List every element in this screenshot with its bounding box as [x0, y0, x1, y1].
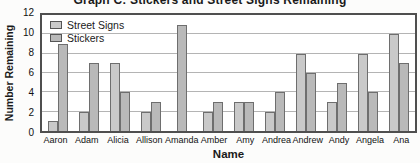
bar-stickers-adam [89, 63, 99, 131]
y-axis-label: Number Remaining [3, 25, 15, 121]
x-label-andy: Andy [323, 135, 354, 145]
bar-stickers-allison [151, 102, 161, 131]
x-axis-label: Name [40, 148, 417, 160]
x-label-amber: Amber [198, 135, 229, 145]
y-tick-label: 4 [28, 88, 34, 98]
y-tick-label: 8 [28, 48, 34, 58]
bar-street-signs-andrew [296, 54, 306, 131]
bar-group-andy [322, 15, 353, 131]
x-label-angela: Angela [355, 135, 386, 145]
y-tick-label: 10 [23, 28, 34, 38]
bar-group-allison [135, 15, 166, 131]
bar-street-signs-adam [79, 112, 89, 131]
y-tick-label: 2 [28, 108, 34, 118]
x-label-aaron: Aaron [40, 135, 71, 145]
x-label-allison: Allison [134, 135, 165, 145]
x-label-andrew: Andrew [292, 135, 323, 145]
legend-swatch-street-signs [50, 21, 62, 29]
bar-street-signs-andy [327, 102, 337, 131]
legend-swatch-stickers [50, 34, 62, 42]
bar-stickers-amanda [177, 25, 187, 131]
y-tick-label: 6 [28, 68, 34, 78]
bar-group-angela [353, 15, 384, 131]
bar-stickers-aaron [58, 44, 68, 131]
bar-street-signs-andrea [265, 112, 275, 131]
x-label-adam: Adam [71, 135, 102, 145]
bar-stickers-amy [244, 102, 254, 131]
y-tick-label: 12 [23, 8, 34, 18]
bar-street-signs-aaron [48, 121, 58, 131]
x-axis-category-labels: AaronAdamAliciaAllisonAmandaAmberAmyAndr… [40, 135, 417, 145]
y-axis-ticks: 121086420 [16, 13, 36, 133]
legend-label-stickers: Stickers [67, 32, 104, 44]
legend-item-stickers: Stickers [50, 31, 124, 44]
bar-street-signs-allison [141, 112, 151, 131]
bar-group-amber [197, 15, 228, 131]
x-label-alicia: Alicia [102, 135, 133, 145]
bar-stickers-andrew [306, 73, 316, 131]
bar-group-andrea [260, 15, 291, 131]
bar-group-andrew [291, 15, 322, 131]
bar-stickers-amber [213, 102, 223, 131]
plot-area: Street Signs Stickers [40, 13, 417, 133]
legend-item-street-signs: Street Signs [50, 18, 124, 31]
bar-street-signs-amy [234, 102, 244, 131]
legend-label-street-signs: Street Signs [67, 19, 124, 31]
bar-stickers-alicia [120, 92, 130, 131]
legend: Street Signs Stickers [50, 18, 124, 44]
bar-stickers-angela [368, 92, 378, 131]
bar-street-signs-alicia [110, 63, 120, 131]
bar-street-signs-angela [358, 54, 368, 131]
bar-stickers-andy [337, 83, 347, 131]
x-label-andrea: Andrea [261, 135, 292, 145]
bar-street-signs-ana [389, 34, 399, 131]
bar-stickers-ana [399, 63, 409, 131]
bar-group-amy [228, 15, 259, 131]
bar-stickers-andrea [275, 92, 285, 131]
x-label-amy: Amy [230, 135, 261, 145]
bar-street-signs-amber [203, 112, 213, 131]
x-label-amanda: Amanda [165, 135, 199, 145]
chart-title: Graph C: Stickers and Street Signs Remai… [0, 0, 420, 7]
y-tick-label: 0 [28, 128, 34, 138]
x-label-ana: Ana [386, 135, 417, 145]
bar-group-amanda [166, 15, 197, 131]
bar-group-ana [384, 15, 415, 131]
